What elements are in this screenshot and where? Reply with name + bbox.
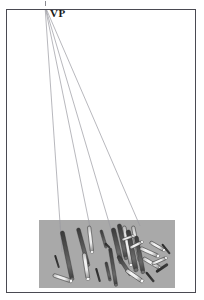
vanishing-point-label: VP	[50, 8, 66, 19]
sight-line	[45, 6, 91, 232]
scene-canvas	[0, 0, 204, 300]
rod-end-cap	[114, 283, 118, 286]
sight-line	[45, 6, 113, 236]
sight-lines	[45, 6, 140, 252]
perspective-figure: VP	[0, 0, 204, 300]
sight-line	[45, 6, 62, 252]
rod-end-cap	[90, 250, 94, 253]
sight-line	[45, 6, 140, 226]
rod-end-cap	[86, 277, 90, 281]
